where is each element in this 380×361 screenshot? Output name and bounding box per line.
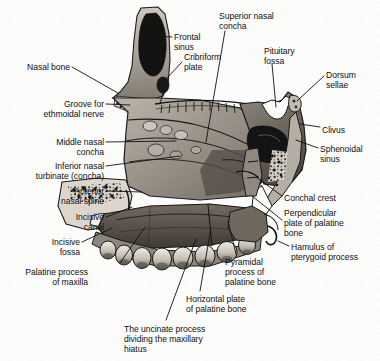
label-groove-ethmoidal-nerve: Groove for ethmoidal nerve [44,99,104,119]
label-frontal-sinus: Frontal sinus [174,32,200,52]
label-clivus: Clivus [322,125,345,135]
label-perpendicular-plate-palatine: Perpendicular plate of palatine bone [284,208,344,238]
anatomy-figure: Nasal boneFrontal sinusCribriform plateS… [0,0,380,361]
label-inferior-nasal-turbinate: Inferior nasal turbinate (concha) [36,161,104,181]
label-incisive-fossa: Incisive fossa [52,237,80,257]
label-nasal-bone: Nasal bone [27,62,70,72]
label-superior-nasal-concha: Superior nasal concha [219,11,274,31]
label-cribriform-plate: Cribriform plate [184,52,221,72]
label-conchal-crest: Conchal crest [284,193,336,203]
label-middle-nasal-concha: Middle nasal concha [56,137,104,157]
label-sphenoidal-sinus: Sphenoidal sinus [320,144,363,164]
label-horizontal-plate-palatine: Horizontal plate of palatine bone [186,294,246,314]
label-hamulus-pterygoid: Hamulus of pterygoid process [291,242,358,262]
label-palatine-process-maxilla: Palatine process of maxilla [25,267,88,287]
label-dorsum-sellae: Dorsum sellae [326,70,356,90]
label-anterior-nasal-spine: Anterior nasal spine [61,186,104,206]
label-uncinate-process: The uncinate process dividing the maxill… [124,324,205,354]
label-incisive-canal: Incisive canal [76,212,104,232]
label-pituitary-fossa: Pituitary fossa [264,46,295,66]
label-pyramidal-process-palatine: Pyramidal process of palatine bone [225,257,276,287]
